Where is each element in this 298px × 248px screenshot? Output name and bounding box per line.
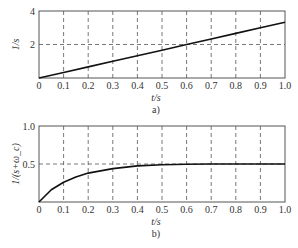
x-tick-label: 0.7 <box>205 204 218 215</box>
x-axis-label: t/s <box>151 92 161 103</box>
x-axis-label: t/s <box>151 216 161 227</box>
x-tick-label: 0.2 <box>82 204 95 215</box>
x-tick-label: 0.6 <box>180 204 193 215</box>
panel-label: a) <box>152 104 160 116</box>
panel-label: b) <box>152 228 160 240</box>
x-tick-label: 0.8 <box>230 204 243 215</box>
x-tick-label: 0.5 <box>156 204 169 215</box>
plot-b: 00.10.20.30.40.50.60.70.80.91.00.51.0t/s… <box>10 121 291 241</box>
x-tick-label: 0 <box>37 80 42 91</box>
x-tick-label: 0.4 <box>131 80 144 91</box>
x-tick-label: 0 <box>37 204 42 215</box>
plot-a: 00.10.20.30.40.50.60.70.80.91.024t/sa)1/… <box>10 6 291 117</box>
x-tick-label: 0.8 <box>230 80 243 91</box>
y-axis-label: 1/(s+ω_c) <box>10 143 22 185</box>
y-tick-label: 2 <box>30 39 35 50</box>
x-tick-label: 0.6 <box>180 80 193 91</box>
x-tick-label: 0.3 <box>107 204 120 215</box>
y-tick-label: 4 <box>30 6 35 17</box>
x-tick-label: 0.9 <box>254 80 267 91</box>
y-tick-label: 1.0 <box>23 121 36 132</box>
y-axis-label: 1/s <box>10 39 21 51</box>
x-tick-label: 0.1 <box>57 204 70 215</box>
x-tick-label: 0.7 <box>205 80 218 91</box>
x-tick-label: 1.0 <box>279 204 292 215</box>
chart-figure: 00.10.20.30.40.50.60.70.80.91.024t/sa)1/… <box>0 0 298 248</box>
x-tick-label: 0.2 <box>82 80 95 91</box>
x-tick-label: 0.1 <box>57 80 70 91</box>
x-tick-label: 0.3 <box>107 80 120 91</box>
x-tick-label: 0.9 <box>254 204 267 215</box>
y-tick-label: 0.5 <box>23 159 36 170</box>
x-tick-label: 1.0 <box>279 80 292 91</box>
x-tick-label: 0.5 <box>156 80 169 91</box>
x-tick-label: 0.4 <box>131 204 144 215</box>
